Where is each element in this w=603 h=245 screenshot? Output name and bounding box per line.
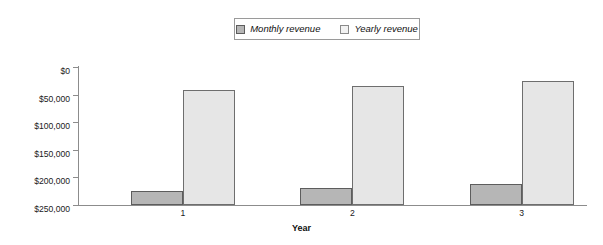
y-tick-label: $150,000 xyxy=(34,150,70,159)
x-tick-label: 1 xyxy=(181,209,186,218)
legend-swatch-yearly-icon xyxy=(340,25,349,34)
bar-yearly-year-2[interactable] xyxy=(352,86,404,205)
plot-area xyxy=(78,67,586,205)
x-tick-label: 3 xyxy=(519,209,524,218)
y-tick-label: $0 xyxy=(60,67,70,76)
y-tick-mark xyxy=(73,205,78,206)
x-axis-line xyxy=(78,205,587,206)
bar-chart: Monthly revenue Yearly revenue $250,000$… xyxy=(0,0,603,245)
legend-label-yearly: Yearly revenue xyxy=(354,24,417,34)
y-tick-label: $200,000 xyxy=(34,177,70,186)
bar-yearly-year-3[interactable] xyxy=(522,81,574,205)
bar-monthly-year-1[interactable] xyxy=(131,191,183,205)
y-tick-label: $50,000 xyxy=(39,95,70,104)
legend-swatch-monthly-icon xyxy=(236,25,245,34)
bar-monthly-year-2[interactable] xyxy=(300,188,352,205)
legend-item-yearly-revenue[interactable]: Yearly revenue xyxy=(340,24,417,34)
y-tick-label: $100,000 xyxy=(34,122,70,131)
y-tick-label: $250,000 xyxy=(34,205,70,214)
chart-legend: Monthly revenue Yearly revenue xyxy=(234,18,420,40)
legend-item-monthly-revenue[interactable]: Monthly revenue xyxy=(236,24,320,34)
bar-yearly-year-1[interactable] xyxy=(183,90,235,205)
x-tick-label: 2 xyxy=(350,209,355,218)
legend-label-monthly: Monthly revenue xyxy=(250,24,320,34)
x-axis-title: Year xyxy=(0,224,603,233)
bar-monthly-year-3[interactable] xyxy=(470,184,522,205)
